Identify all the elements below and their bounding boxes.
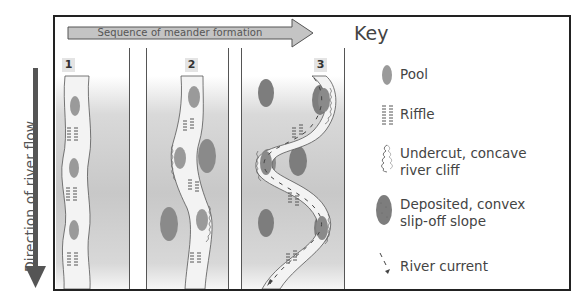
panel-divider [129,48,130,289]
pool-icon [69,158,79,178]
river-cliff-icon [377,143,395,173]
key-divider [344,48,345,289]
panel-stage-2: 2 [147,48,228,289]
pool-icon [316,216,328,240]
pool-icon [318,88,330,112]
slip-off-slope-icon [198,139,216,173]
key-item-label-line2: slip-off slope [400,213,486,229]
river-channel [147,48,228,289]
pool-icon [196,209,208,231]
slip-off-slope-icon [289,146,307,176]
river-current-icon [378,252,392,276]
slip-off-slope-icon [258,79,274,107]
panel-stage-3: 3 [242,48,344,289]
sequence-label: Sequence of meander formation [70,27,290,38]
key-title: Key [354,22,388,44]
slip-off-slope-icon [258,209,274,237]
key-item-riffle: Riffle [400,106,435,123]
key-item-label-line2: river cliff [400,162,460,178]
flow-direction-label: Direction of river flow [22,121,38,272]
key-item-label-line1: Undercut, concave [400,145,527,161]
key-item-slip-off-slope: Deposited, convex slip-off slope [400,196,525,230]
pool-icon [70,96,80,116]
slip-off-slope-icon [374,193,394,227]
key-item-river-current: River current [400,258,488,275]
key-item-pool: Pool [400,66,428,83]
river-channel [56,48,129,289]
river-channel [242,48,344,289]
pool-icon [380,63,394,87]
panel-divider [228,48,229,289]
pool-icon [188,86,200,108]
pool-icon [69,220,79,240]
riffle-icon [381,104,395,128]
pool-icon [174,147,186,169]
key-item-river-cliff: Undercut, concave river cliff [400,145,527,179]
key-item-label-line1: Deposited, convex [400,196,525,212]
slip-off-slope-icon [160,207,178,241]
panel-stage-1: 1 [56,48,129,289]
